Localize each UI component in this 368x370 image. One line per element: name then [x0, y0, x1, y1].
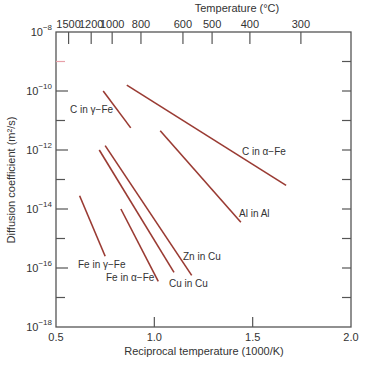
series-line: [99, 150, 174, 272]
top-tick-label: 400: [241, 18, 259, 30]
series-line: [80, 196, 106, 256]
y-axis-title: Diffusion coefficient (m²/s): [5, 117, 17, 244]
top-tick-label: 600: [174, 18, 192, 30]
series-label: Zn in Cu: [183, 251, 221, 262]
x-tick-label: 1.5: [245, 331, 260, 343]
x-tick-label: 2.0: [343, 331, 358, 343]
tick-labels: 0.51.01.52.01500120010008006005004003001…: [26, 18, 358, 343]
series-line: [105, 146, 192, 276]
top-tick-label: 500: [203, 18, 221, 30]
y-tick-label: 10−8: [31, 23, 53, 38]
series-line: [127, 85, 286, 185]
series-label: C in α−Fe: [242, 146, 286, 157]
series-line: [121, 209, 158, 281]
y-tick-label: 10−10: [26, 82, 52, 97]
top-tick-label: 300: [292, 18, 310, 30]
series-label: Al in Al: [239, 208, 270, 219]
y-tick-label: 10−12: [26, 141, 52, 156]
top-axis-title: Temperature (°C): [195, 2, 279, 14]
series-label: Fe in α−Fe: [106, 272, 155, 283]
series-line: [160, 131, 241, 222]
diffusion-chart: 0.51.01.52.01500120010008006005004003001…: [0, 0, 368, 370]
series-label: Cu in Cu: [169, 278, 208, 289]
y-tick-label: 10−16: [26, 259, 52, 274]
x-tick-label: 0.5: [48, 331, 63, 343]
series-label: Fe in γ−Fe: [78, 259, 126, 270]
top-tick-label: 1500: [56, 18, 80, 30]
x-tick-label: 1.0: [147, 331, 162, 343]
top-tick-label: 1000: [100, 18, 124, 30]
series-labels: C in γ−FeC in α−FeAl in AlZn in CuCu in …: [70, 104, 286, 289]
y-tick-label: 10−14: [26, 200, 52, 215]
top-tick-label: 800: [132, 18, 150, 30]
x-axis-title: Reciprocal temperature (1000/K): [124, 345, 284, 357]
series-label: C in γ−Fe: [70, 104, 114, 115]
